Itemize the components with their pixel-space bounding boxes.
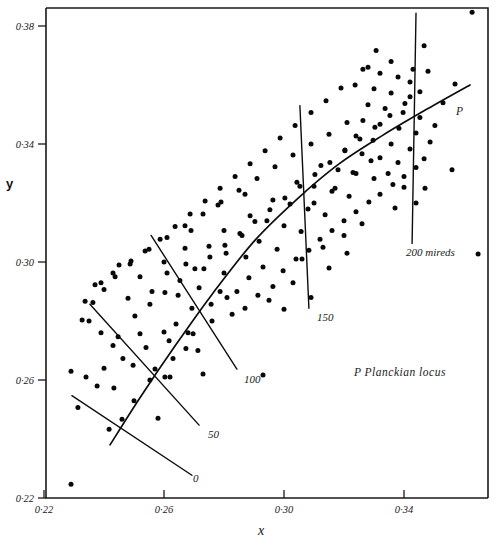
scatter-point bbox=[360, 118, 365, 123]
scatter-point bbox=[120, 356, 125, 361]
scatter-point bbox=[80, 318, 85, 323]
scatter-point bbox=[293, 123, 298, 128]
scatter-point bbox=[387, 113, 392, 118]
scatter-point bbox=[378, 192, 383, 197]
scatter-point bbox=[453, 82, 458, 87]
scatter-point bbox=[255, 293, 260, 298]
scatter-point bbox=[102, 366, 107, 371]
scatter-point bbox=[389, 90, 394, 95]
x-tick-label: 0·22 bbox=[35, 504, 54, 515]
scatter-point bbox=[354, 209, 359, 214]
scatter-point bbox=[318, 237, 323, 242]
scatter-point bbox=[345, 120, 350, 125]
scatter-point bbox=[183, 246, 188, 251]
scatter-point bbox=[84, 375, 89, 380]
scatter-point bbox=[336, 167, 341, 172]
scatter-point bbox=[138, 274, 143, 279]
scatter-point bbox=[264, 218, 269, 223]
scatter-point bbox=[342, 218, 347, 223]
scatter-point bbox=[353, 83, 358, 88]
scatter-point bbox=[237, 231, 242, 236]
scatter-point bbox=[167, 338, 172, 343]
scatter-point bbox=[183, 346, 188, 351]
scatter-point bbox=[282, 307, 287, 312]
scatter-point bbox=[417, 89, 422, 94]
scatter-point bbox=[248, 161, 253, 166]
scatter-point bbox=[248, 213, 253, 218]
scatter-point bbox=[450, 167, 455, 172]
scatter-point bbox=[408, 147, 413, 152]
scatter-point bbox=[252, 219, 257, 224]
scatter-point bbox=[83, 299, 88, 304]
scatter-point bbox=[383, 106, 388, 111]
scatter-point bbox=[360, 151, 365, 156]
scatter-point bbox=[263, 148, 268, 153]
scatter-point bbox=[111, 385, 116, 390]
scatter-point bbox=[347, 194, 352, 199]
scatter-point bbox=[95, 383, 100, 388]
scatter-point bbox=[197, 285, 202, 290]
scatter-point bbox=[372, 86, 377, 91]
scatter-point bbox=[309, 142, 314, 147]
scatter-point bbox=[324, 98, 329, 103]
scatter-point bbox=[318, 163, 323, 168]
scatter-point bbox=[282, 223, 287, 228]
scatter-point bbox=[408, 94, 413, 99]
scatter-point bbox=[225, 295, 230, 300]
scatter-point bbox=[333, 186, 338, 191]
scatter-point bbox=[210, 319, 215, 324]
scatter-point bbox=[93, 282, 98, 287]
scatter-point bbox=[393, 206, 398, 211]
scatter-point bbox=[476, 252, 481, 257]
scatter-point bbox=[144, 345, 149, 350]
scatter-point bbox=[321, 245, 326, 250]
scatter-point bbox=[378, 71, 383, 76]
scatter-point bbox=[422, 156, 427, 161]
scatter-point bbox=[195, 348, 200, 353]
scatter-point bbox=[267, 298, 272, 303]
scatter-point bbox=[107, 427, 112, 432]
scatter-point bbox=[372, 125, 377, 130]
y-axis-ticks: 0·220·260·300·340·38 bbox=[16, 21, 46, 504]
scatter-point bbox=[90, 300, 95, 305]
scatter-point bbox=[111, 343, 116, 348]
scatter-point bbox=[246, 275, 251, 280]
scatter-point bbox=[306, 248, 311, 253]
scatter-point bbox=[120, 417, 125, 422]
planckian-locus-curve bbox=[110, 85, 470, 445]
scatter-point bbox=[401, 110, 406, 115]
scatter-point bbox=[330, 228, 335, 233]
scatter-point bbox=[99, 280, 104, 285]
scatter-point bbox=[147, 302, 152, 307]
scatter-point bbox=[168, 375, 173, 380]
scatter-point bbox=[360, 221, 365, 226]
scatter-point bbox=[300, 257, 305, 262]
scatter-point bbox=[309, 295, 314, 300]
scatter-point bbox=[218, 289, 223, 294]
annotation-labels-group: PP Planckian locus bbox=[353, 105, 463, 378]
scatter-point bbox=[294, 257, 299, 262]
isotemperature-line-200-mireds bbox=[412, 13, 416, 243]
scatter-point bbox=[209, 302, 214, 307]
scatter-point bbox=[69, 482, 74, 487]
scatter-point bbox=[224, 251, 229, 256]
scatter-point bbox=[255, 176, 260, 181]
scatter-point bbox=[171, 356, 176, 361]
chromaticity-scatter-figure: 0·220·260·300·340·38 0·220·260·300·34 y … bbox=[0, 0, 496, 545]
scatter-point bbox=[174, 321, 179, 326]
isotemperature-line-0 bbox=[72, 396, 192, 476]
y-tick-label: 0·34 bbox=[16, 139, 35, 150]
scatter-point bbox=[426, 69, 431, 74]
scatter-point bbox=[243, 192, 248, 197]
scatter-point bbox=[237, 188, 242, 193]
scatter-point bbox=[173, 224, 178, 229]
scatter-point bbox=[201, 211, 206, 216]
scatter-point bbox=[261, 372, 266, 377]
scatter-point bbox=[312, 201, 317, 206]
scatter-point bbox=[162, 329, 167, 334]
isotemperature-label-50: 50 bbox=[208, 428, 220, 440]
scatter-point bbox=[291, 152, 296, 157]
scatter-point bbox=[327, 132, 332, 137]
scatter-point bbox=[423, 186, 428, 191]
scatter-point bbox=[153, 367, 158, 372]
